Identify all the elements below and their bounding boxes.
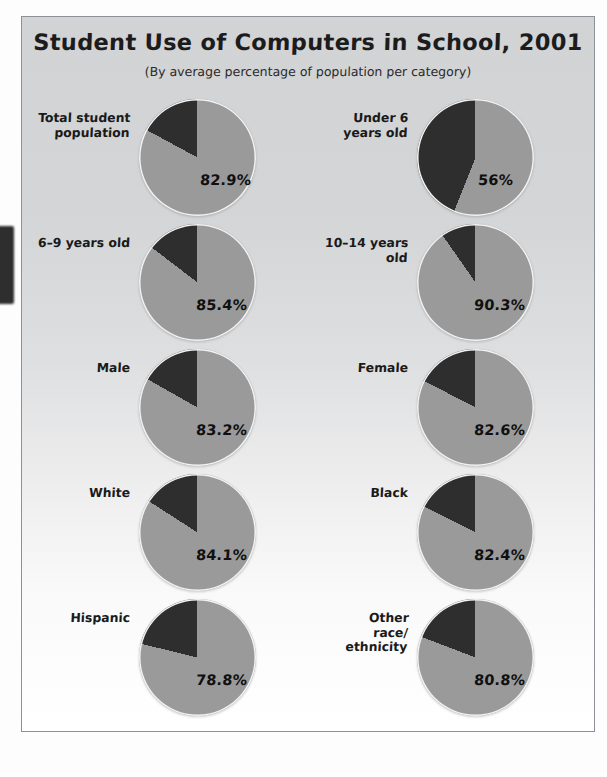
pie-chart-grid: Total student population 82.9% Under 6 y… <box>22 95 594 720</box>
pie-label: White <box>26 486 131 501</box>
pie-label: Under 6 years old <box>311 111 409 140</box>
pie-graphic: 82.9% <box>139 99 256 216</box>
pie-label: Black <box>312 486 409 501</box>
pie-disc <box>417 99 534 216</box>
pie-graphic: 84.1% <box>139 474 256 591</box>
pie-chart-white: White 84.1% <box>22 470 308 595</box>
pie-value-label: 82.4% <box>473 547 525 563</box>
pie-value-label: 83.2% <box>195 422 247 438</box>
chart-header: Student Use of Computers in School, 2001… <box>22 17 594 79</box>
pie-value-label: 56% <box>477 172 513 188</box>
pie-graphic: 85.4% <box>139 224 256 341</box>
pie-label: 6–9 years old <box>26 236 131 251</box>
pie-disc <box>139 474 256 591</box>
pie-graphic: 82.4% <box>417 474 534 591</box>
pie-chart-other-race-ethnicity: Other race/ ethnicity 80.8% <box>308 595 594 720</box>
pie-disc <box>139 599 256 716</box>
pie-value-label: 78.8% <box>195 672 247 688</box>
pie-disc <box>417 224 534 341</box>
chart-subtitle: (By average percentage of population per… <box>22 64 595 79</box>
pie-chart-under-6-years-old: Under 6 years old 56% <box>308 95 594 220</box>
pie-label: Total student population <box>25 111 131 140</box>
pie-graphic: 56% <box>417 99 534 216</box>
pie-label: Other race/ ethnicity <box>311 611 409 655</box>
pie-chart-6-9-years-old: 6–9 years old 85.4% <box>22 220 308 345</box>
pie-value-label: 80.8% <box>473 672 525 688</box>
pie-disc <box>139 349 256 466</box>
chart-panel: Student Use of Computers in School, 2001… <box>21 16 595 732</box>
pie-graphic: 83.2% <box>139 349 256 466</box>
pie-value-label: 85.4% <box>195 297 247 313</box>
pie-disc <box>417 474 534 591</box>
pie-value-label: 82.9% <box>199 172 251 188</box>
pie-disc <box>417 599 534 716</box>
pie-label: Male <box>26 361 131 376</box>
scan-artifact <box>0 226 14 304</box>
pie-chart-male: Male 83.2% <box>22 345 308 470</box>
pie-value-label: 90.3% <box>473 297 525 313</box>
pie-disc <box>417 349 534 466</box>
pie-chart-black: Black 82.4% <box>308 470 594 595</box>
pie-chart-female: Female 82.6% <box>308 345 594 470</box>
pie-value-label: 84.1% <box>195 547 247 563</box>
pie-label: Hispanic <box>26 611 131 626</box>
page-title: Student Use of Computers in School, 2001 <box>22 29 595 55</box>
pie-graphic: 80.8% <box>417 599 534 716</box>
pie-graphic: 78.8% <box>139 599 256 716</box>
pie-label: 10–14 years old <box>311 236 409 265</box>
pie-value-label: 82.6% <box>473 422 525 438</box>
pie-graphic: 90.3% <box>417 224 534 341</box>
pie-label: Female <box>312 361 409 376</box>
pie-chart-10-14-years-old: 10–14 years old 90.3% <box>308 220 594 345</box>
poster-page: Student Use of Computers in School, 2001… <box>0 0 607 777</box>
pie-graphic: 82.6% <box>417 349 534 466</box>
pie-disc <box>139 224 256 341</box>
pie-chart-hispanic: Hispanic 78.8% <box>22 595 308 720</box>
pie-chart-total-student-population: Total student population 82.9% <box>22 95 308 220</box>
pie-disc <box>139 99 256 216</box>
